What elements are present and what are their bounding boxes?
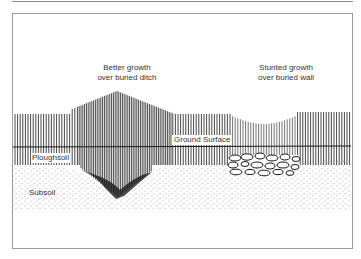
subsoil-layer [13, 160, 351, 210]
ground-surface-label: Ground Surface [172, 135, 232, 145]
wall-annotation: Stunted growth over buried wall [241, 63, 331, 83]
ditch-annotation-line2: over buried ditch [82, 73, 172, 83]
subsoil-label: Subsoil [29, 188, 55, 198]
ditch-annotation-line1: Better growth [82, 63, 172, 73]
wall-annotation-line2: over buried wall [241, 73, 331, 83]
ditch-annotation: Better growth over buried ditch [82, 63, 172, 83]
ploughsoil-label: Ploughsoil [31, 153, 70, 163]
wall-annotation-line1: Stunted growth [241, 63, 331, 73]
cropmark-cross-section [0, 0, 361, 259]
